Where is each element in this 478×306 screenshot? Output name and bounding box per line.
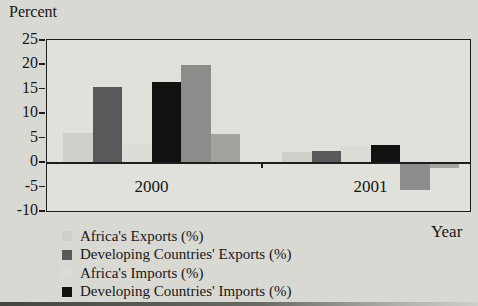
zero-baseline	[47, 162, 470, 164]
bar	[93, 87, 123, 162]
x-tick-mark	[261, 164, 263, 168]
y-tick-mark	[39, 112, 45, 114]
legend-swatch	[62, 250, 72, 260]
bar	[282, 152, 312, 162]
bar	[152, 82, 182, 163]
x-category-label: 2001	[331, 177, 411, 197]
bar	[63, 133, 93, 162]
y-tick-mark	[39, 186, 45, 188]
x-category-label: 2000	[112, 177, 192, 197]
y-axis-title: Percent	[9, 3, 57, 21]
legend-item: Africa's Exports (%)	[62, 227, 291, 246]
y-tick-label: 5	[0, 129, 38, 145]
bar	[371, 145, 401, 163]
bar	[211, 134, 241, 162]
y-tick-label: 0	[0, 153, 38, 169]
y-tick-mark	[39, 210, 45, 212]
legend-label: Developing Countries' Imports (%)	[80, 284, 291, 299]
bar-chart-figure: Percent 20002001 Year Africa's Exports (…	[0, 0, 478, 306]
legend-item: Developing Countries' Exports (%)	[62, 246, 291, 265]
y-tick-label: 25	[0, 31, 38, 47]
y-tick-mark	[39, 161, 45, 163]
y-tick-label: 10	[0, 104, 38, 120]
y-tick-mark	[39, 39, 45, 41]
y-tick-label: -5	[0, 178, 38, 194]
plot-area: 20002001	[46, 39, 471, 212]
y-tick-label: 15	[0, 80, 38, 96]
x-axis-title: Year	[431, 222, 462, 242]
legend-item: Africa's Imports (%)	[62, 264, 291, 283]
legend-label: Africa's Exports (%)	[80, 229, 204, 244]
legend-label: Africa's Imports (%)	[80, 266, 204, 281]
y-tick-label: 20	[0, 55, 38, 71]
legend-swatch	[62, 231, 72, 241]
bar	[312, 151, 342, 162]
bar	[181, 65, 211, 162]
y-tick-mark	[39, 137, 45, 139]
legend-label: Developing Countries' Exports (%)	[80, 247, 291, 262]
y-tick-mark	[39, 88, 45, 90]
bar	[341, 146, 371, 163]
y-tick-label: -10	[0, 202, 38, 218]
chart-legend: Africa's Exports (%)Developing Countries…	[62, 227, 291, 301]
legend-swatch	[62, 287, 72, 297]
legend-swatch	[62, 268, 72, 278]
bar	[122, 144, 152, 162]
y-tick-mark	[39, 63, 45, 65]
legend-item: Developing Countries' Imports (%)	[62, 283, 291, 302]
scan-edge-shadow	[0, 302, 478, 306]
